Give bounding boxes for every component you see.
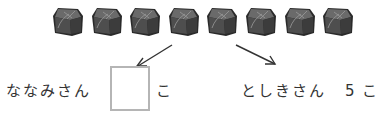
right-unit: こ	[362, 81, 379, 101]
left-unit: こ	[156, 81, 173, 101]
candy-piece-icon	[91, 6, 123, 37]
candy-row	[52, 6, 362, 38]
candy-piece-icon	[245, 6, 277, 37]
candy-piece-icon	[52, 6, 84, 37]
candy-piece-icon	[129, 6, 161, 37]
arrow-left-icon	[137, 45, 172, 66]
left-person-name: ななみさん	[6, 81, 91, 101]
arrow-right-icon	[236, 45, 275, 64]
candy-piece-icon	[168, 6, 200, 37]
right-count: 5	[345, 81, 357, 101]
answer-input-box[interactable]	[110, 66, 150, 111]
candy-piece-icon	[206, 6, 238, 37]
candy-piece-icon	[322, 6, 354, 37]
right-person-name: としきさん	[241, 81, 326, 101]
candy-piece-icon	[284, 6, 316, 37]
